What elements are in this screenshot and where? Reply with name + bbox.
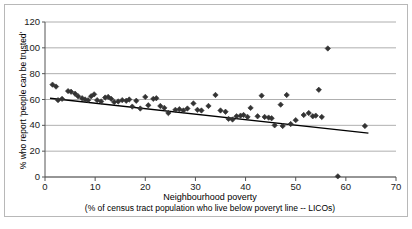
data-point bbox=[255, 114, 260, 119]
data-point bbox=[130, 104, 135, 109]
data-point bbox=[191, 101, 196, 106]
x-axis-title: Neighbourhood poverty bbox=[80, 192, 340, 202]
data-point bbox=[278, 102, 283, 107]
data-point bbox=[146, 103, 151, 108]
data-point bbox=[316, 87, 321, 92]
data-point bbox=[325, 46, 330, 51]
data-point bbox=[134, 98, 139, 103]
data-point bbox=[143, 94, 148, 99]
data-point bbox=[259, 93, 264, 98]
data-point bbox=[284, 92, 289, 97]
data-point bbox=[199, 108, 204, 113]
data-point bbox=[213, 92, 218, 97]
data-point bbox=[293, 117, 298, 122]
data-point bbox=[288, 121, 293, 126]
data-point bbox=[335, 174, 340, 179]
data-point bbox=[218, 108, 223, 113]
data-point bbox=[319, 114, 324, 119]
data-point bbox=[301, 112, 306, 117]
scatter-chart: % who report 'people can be trusted' 120… bbox=[0, 0, 412, 229]
data-point bbox=[206, 103, 211, 108]
data-point bbox=[306, 110, 311, 115]
data-point bbox=[138, 106, 143, 111]
data-point bbox=[362, 123, 367, 128]
data-point bbox=[248, 105, 253, 110]
data-point bbox=[223, 109, 228, 114]
x-axis-subtitle: (% of census tract population who live b… bbox=[50, 203, 370, 213]
